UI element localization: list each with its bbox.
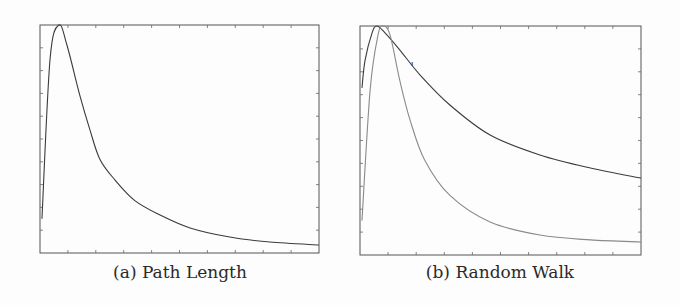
plot-path-length: (a) Path Length: [40, 25, 319, 282]
caption-b: (b) Random Walk: [426, 262, 575, 282]
series-line-random-walk-upper: [362, 26, 641, 178]
annotations: ': [411, 61, 414, 75]
plot-random-walk: ' (b) Random Walk: [360, 26, 641, 282]
caption-a: (a) Path Length: [113, 262, 247, 282]
plot-frame: [40, 25, 319, 253]
series-line-path-length: [42, 25, 319, 245]
series-lines: [42, 25, 319, 245]
series-lines: [362, 26, 641, 242]
series-line-random-walk-lower: [362, 26, 641, 242]
annotation-mark: ': [411, 61, 414, 75]
figure: (a) Path Length ' (b) Random Walk: [0, 0, 680, 305]
axis-ticks: [40, 25, 319, 253]
